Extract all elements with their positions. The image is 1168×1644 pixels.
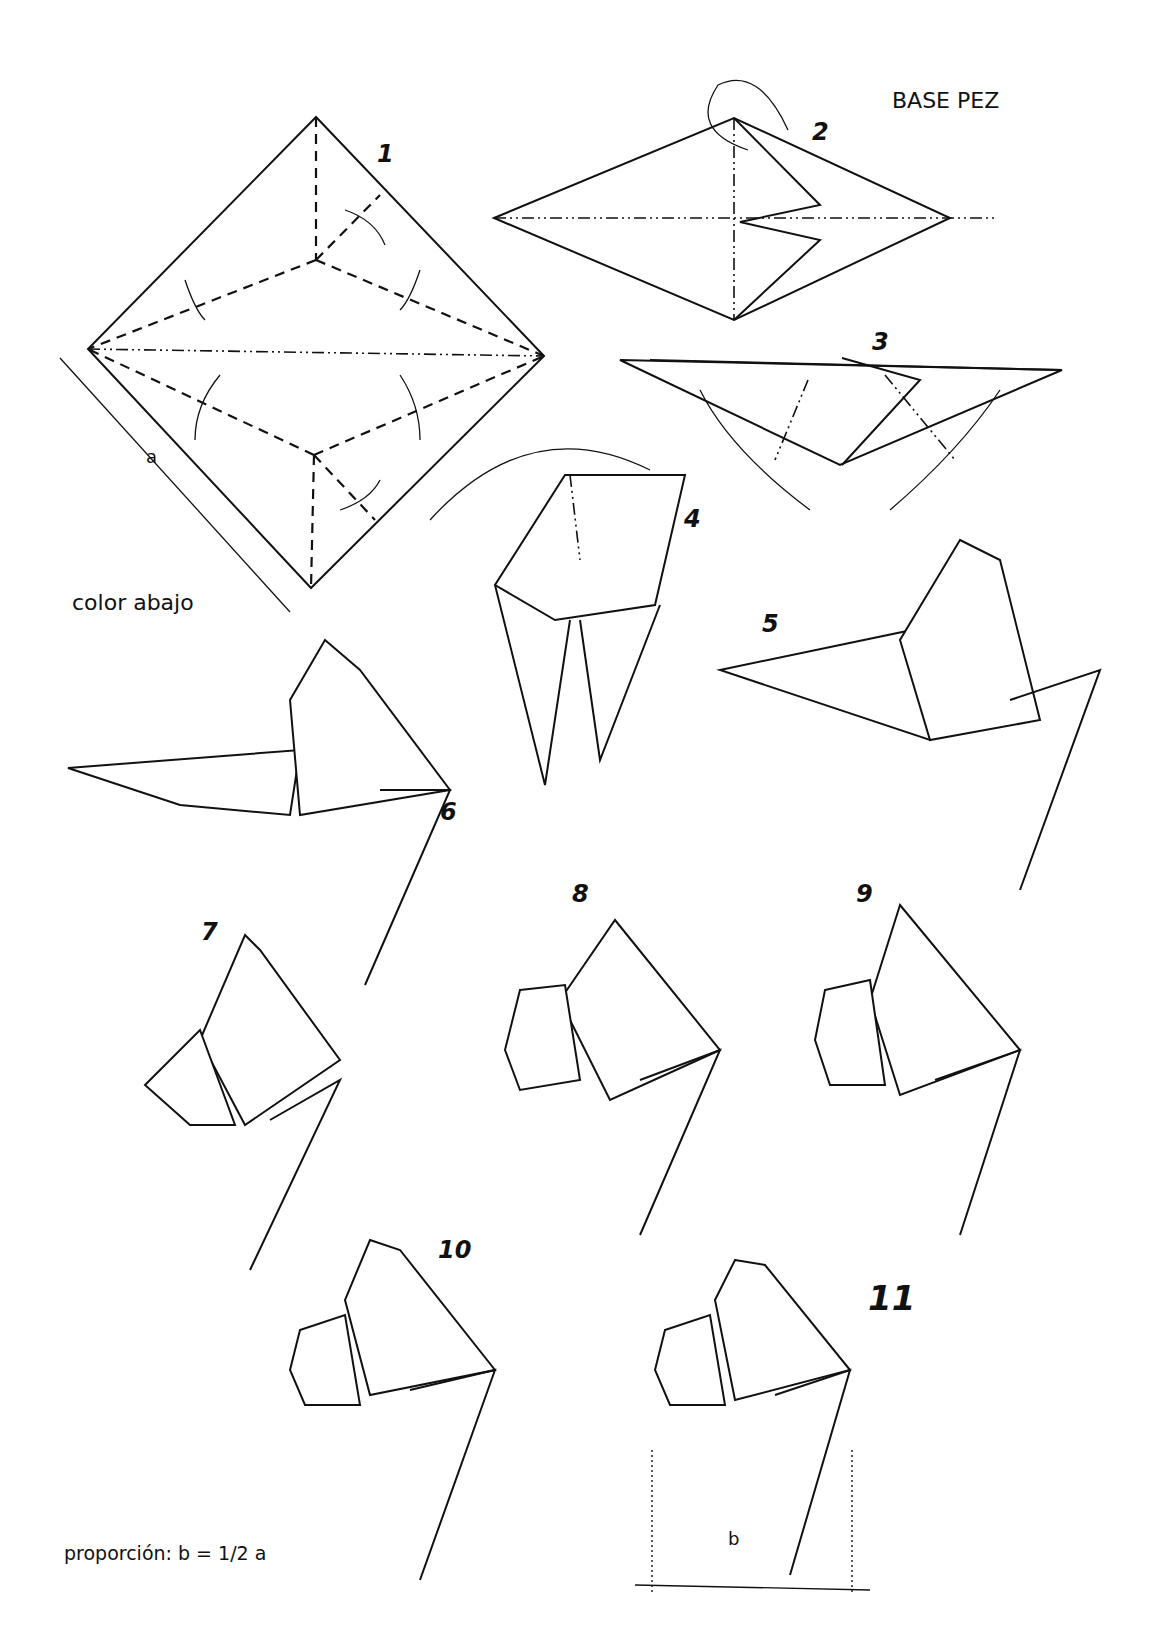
step-4-figure (430, 449, 685, 785)
step-3-base (620, 358, 1062, 510)
step-5-figure (720, 540, 1100, 890)
step-8-figure (505, 920, 720, 1235)
folding-diagrams (0, 0, 1168, 1644)
step-10-figure (290, 1240, 495, 1580)
step-2-base (494, 80, 995, 320)
step-9-figure (815, 905, 1020, 1235)
step-6-figure (68, 640, 450, 985)
step-7-figure (145, 935, 340, 1270)
step-11-final (635, 1260, 870, 1595)
step-1-square (60, 117, 544, 612)
